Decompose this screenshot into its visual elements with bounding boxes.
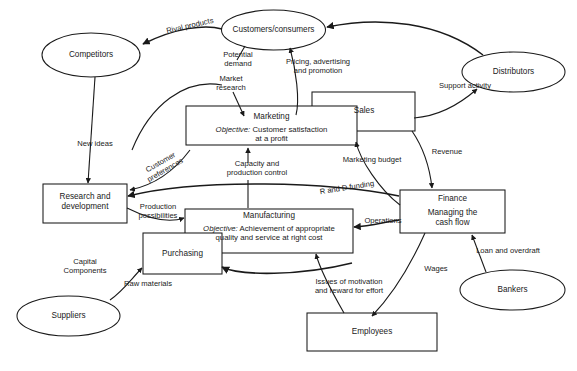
node-customers-shape xyxy=(222,10,326,50)
edge-motivation-reward xyxy=(316,254,344,313)
edge-manufacturing-to-purchasing xyxy=(222,263,352,273)
edge-customer-preferences xyxy=(130,150,190,190)
marketing-objective-lead: Objective: xyxy=(216,125,251,134)
node-distributors-shape xyxy=(462,52,565,92)
node-research-shape xyxy=(43,184,127,223)
marketing-objective-line1: Customer satisfaction xyxy=(250,125,327,134)
marketing-objective-line2: at a profit xyxy=(255,134,288,143)
manufacturing-objective-lead: Objective: xyxy=(203,224,238,233)
edge-operations xyxy=(354,220,399,227)
node-suppliers-shape xyxy=(17,296,120,336)
diagram-graphics xyxy=(0,0,577,371)
edge-rival-products xyxy=(143,27,222,44)
edge-loan-overdraft xyxy=(472,235,486,272)
edge-rd-funding xyxy=(128,184,399,196)
manufacturing-objective-line2: quality and service at right cost xyxy=(215,233,322,242)
edge-new-ideas xyxy=(88,77,95,183)
node-competitors-shape xyxy=(42,33,140,77)
edge-pricing-advertising xyxy=(290,48,298,115)
edge-distributors-to-customers xyxy=(327,22,483,55)
node-bankers-shape xyxy=(460,270,565,310)
edge-wages xyxy=(372,233,425,316)
node-finance-shape xyxy=(400,190,505,233)
edge-support-activity xyxy=(414,89,477,118)
diagram-canvas: Competitors Customers/consumers Distribu… xyxy=(0,0,577,371)
edge-potential-demand xyxy=(237,46,245,60)
manufacturing-objective-line1: Achievement of appropriate xyxy=(238,224,335,233)
node-manufacturing-objective: Objective: Achievement of appropriatequa… xyxy=(180,224,358,242)
node-marketing-objective: Objective: Customer satisfactionat a pro… xyxy=(186,126,357,144)
edge-production-possibilities xyxy=(127,208,184,220)
edge-revenue xyxy=(412,131,432,188)
edge-raw-materials xyxy=(110,268,142,300)
node-employees-shape xyxy=(307,313,437,351)
